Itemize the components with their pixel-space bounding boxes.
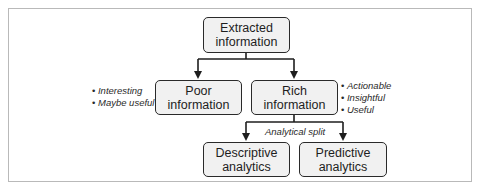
node-extracted-information: Extracted information — [203, 17, 290, 53]
note-item: Actionable — [341, 80, 391, 92]
node-descriptive-analytics: Descriptive analytics — [203, 142, 290, 177]
arrow-to-predictive-icon — [339, 133, 347, 141]
analytical-split-label: Analytical split — [265, 126, 325, 137]
note-item: Maybe useful — [92, 97, 154, 109]
note-item: Useful — [341, 104, 391, 116]
note-item: Insightful — [341, 92, 391, 104]
node-poor-information: Poor information — [155, 80, 242, 115]
note-item: Interesting — [92, 85, 154, 97]
rich-information-notes: Actionable Insightful Useful — [341, 80, 391, 116]
arrow-to-poor-icon — [194, 71, 202, 79]
arrow-to-rich-icon — [290, 71, 298, 79]
root-connectors — [198, 52, 294, 72]
node-rich-information: Rich information — [251, 80, 338, 115]
node-predictive-analytics: Predictive analytics — [299, 142, 387, 177]
poor-information-notes: Interesting Maybe useful — [92, 85, 154, 109]
arrow-to-descriptive-icon — [242, 133, 250, 141]
